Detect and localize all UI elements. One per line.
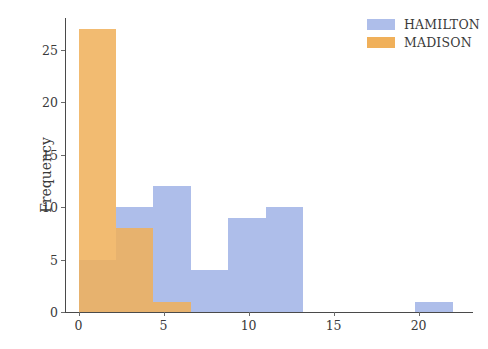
y-tick-label: 20 <box>42 95 58 110</box>
legend-swatch-icon-madison <box>367 37 395 48</box>
histogram-bar <box>153 302 190 313</box>
x-tick-label: 10 <box>241 318 257 333</box>
y-tick-label: 10 <box>42 200 58 215</box>
x-tick-label: 5 <box>160 318 168 333</box>
histogram-figure: Frequency 0510152025 05101520 HAMILTON M… <box>0 0 488 349</box>
legend-item-hamilton[interactable]: HAMILTON <box>367 17 480 32</box>
x-tick-label: 0 <box>75 318 83 333</box>
y-tick-label: 25 <box>42 42 58 57</box>
x-tick-label: 15 <box>326 318 342 333</box>
legend-swatch-icon-hamilton <box>367 19 395 30</box>
y-tick-label: 5 <box>50 252 58 267</box>
legend-label-madison: MADISON <box>404 35 472 50</box>
series-bars-madison <box>65 18 473 313</box>
legend-label-hamilton: HAMILTON <box>404 17 480 32</box>
x-tick-label: 20 <box>411 318 427 333</box>
y-tick-label: 0 <box>50 305 58 320</box>
plot-area: 0510152025 05101520 <box>65 18 473 313</box>
legend-item-madison[interactable]: MADISON <box>367 35 480 50</box>
legend: HAMILTON MADISON <box>367 17 480 50</box>
y-tick-label: 15 <box>42 147 58 162</box>
histogram-bar <box>79 29 116 313</box>
histogram-bar <box>116 228 153 312</box>
